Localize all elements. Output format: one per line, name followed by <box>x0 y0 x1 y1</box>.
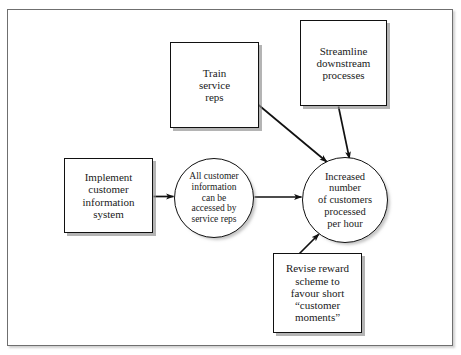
node-all-customer-information-accessed[interactable]: All customer information can be accessed… <box>174 158 254 238</box>
node-implement-customer-information-system[interactable]: Implement customer information system <box>64 158 153 233</box>
node-label: All customer information can be accessed… <box>187 171 240 224</box>
diagram-canvas: Implement customer information system Tr… <box>0 0 461 355</box>
node-label: Streamline downstream processes <box>315 45 373 82</box>
node-label: Implement customer information system <box>81 171 137 220</box>
node-train-service-reps[interactable]: Train service reps <box>170 42 259 128</box>
node-increased-number-of-customers[interactable]: Increased number of customers processed … <box>302 157 388 243</box>
node-label: Train service reps <box>197 67 232 104</box>
node-label: Increased number of customers processed … <box>316 171 374 230</box>
node-label: Revise reward scheme to favour short “cu… <box>284 262 351 324</box>
node-streamline-downstream-processes[interactable]: Streamline downstream processes <box>300 20 387 106</box>
node-revise-reward-scheme[interactable]: Revise reward scheme to favour short “cu… <box>273 253 362 333</box>
